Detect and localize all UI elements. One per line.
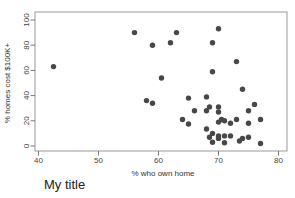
data-point <box>180 117 185 122</box>
x-axis-ticks: 4050607080 <box>34 151 283 165</box>
data-point <box>150 101 155 106</box>
data-point <box>216 26 221 31</box>
data-point <box>207 104 212 109</box>
data-point <box>216 136 221 141</box>
data-point <box>210 40 215 45</box>
plot-box <box>35 12 287 151</box>
data-point <box>246 121 251 126</box>
data-point <box>258 141 263 146</box>
data-point <box>210 140 215 145</box>
data-point <box>222 118 227 123</box>
x-tick-label: 50 <box>94 156 103 165</box>
data-point <box>228 133 233 138</box>
data-point <box>252 102 257 107</box>
y-tick-label: 20 <box>22 116 31 125</box>
data-point <box>207 135 212 140</box>
data-point <box>186 95 191 100</box>
data-point <box>174 30 179 35</box>
scatter-plot-figure: 4050607080020406080100% who own home% ho… <box>0 0 295 198</box>
x-tick-label: 80 <box>274 156 283 165</box>
data-point <box>222 140 227 145</box>
x-tick-label: 60 <box>154 156 163 165</box>
x-tick-label: 70 <box>214 156 223 165</box>
y-tick-label: 100 <box>22 13 31 27</box>
y-tick-label: 60 <box>22 65 31 74</box>
y-axis-label: % homes cost $100K+ <box>3 43 12 124</box>
data-point <box>222 133 227 138</box>
data-point <box>258 117 263 122</box>
data-point <box>237 138 242 143</box>
y-axis-ticks: 020406080100 <box>22 13 35 148</box>
data-point <box>204 94 209 99</box>
data-point <box>234 59 239 64</box>
data-point <box>216 109 221 114</box>
data-point <box>228 121 233 126</box>
data-point <box>168 40 173 45</box>
data-point <box>132 30 137 35</box>
y-tick-label: 0 <box>22 143 31 148</box>
data-point <box>246 108 251 113</box>
data-point <box>51 64 56 69</box>
chart-title: My title <box>44 177 85 192</box>
data-point <box>144 98 149 103</box>
y-tick-label: 80 <box>22 40 31 49</box>
x-tick-label: 40 <box>34 156 43 165</box>
data-point <box>186 121 191 126</box>
x-axis-label: % who own home <box>131 169 195 178</box>
data-point <box>240 87 245 92</box>
data-point <box>234 117 239 122</box>
data-point <box>192 108 197 113</box>
data-point <box>210 69 215 74</box>
data-point <box>204 126 209 131</box>
data-point <box>216 104 221 109</box>
data-point <box>216 119 221 124</box>
scatter-plot: 4050607080020406080100% who own home% ho… <box>0 0 295 198</box>
data-point <box>159 75 164 80</box>
data-point <box>246 135 251 140</box>
y-tick-label: 40 <box>22 91 31 100</box>
data-point <box>150 43 155 48</box>
